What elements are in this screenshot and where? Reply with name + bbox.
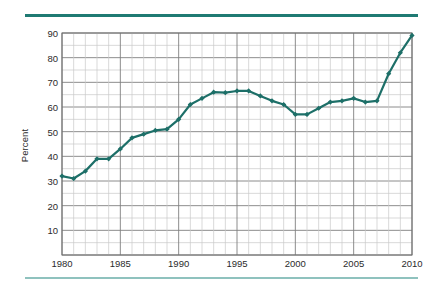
x-axis-tick-label: 2000 [272, 258, 318, 269]
x-axis-tick-label: 1995 [214, 258, 260, 269]
line-chart [0, 0, 443, 287]
y-axis-tick-label: 10 [34, 225, 58, 236]
x-axis-tick-label: 2005 [331, 258, 377, 269]
x-axis-tick-label: 1980 [39, 258, 85, 269]
x-axis-tick-label: 2010 [389, 258, 435, 269]
y-axis-tick-label: 50 [34, 126, 58, 137]
y-axis-tick-labels: 908070605040302010 [34, 0, 58, 287]
y-axis-tick-label: 20 [34, 200, 58, 211]
y-axis-tick-label: 90 [34, 28, 58, 39]
plot-svg [0, 0, 443, 287]
y-axis-tick-label: 80 [34, 52, 58, 63]
y-axis-tick-label: 60 [34, 102, 58, 113]
x-axis-tick-label: 1990 [156, 258, 202, 269]
y-axis-tick-label: 40 [34, 151, 58, 162]
y-axis-title: Percent [19, 116, 30, 176]
chart-figure: Percent 908070605040302010 1980198519901… [0, 0, 443, 287]
y-axis-tick-label: 70 [34, 77, 58, 88]
y-axis-tick-label: 30 [34, 176, 58, 187]
x-axis-tick-label: 1985 [97, 258, 143, 269]
